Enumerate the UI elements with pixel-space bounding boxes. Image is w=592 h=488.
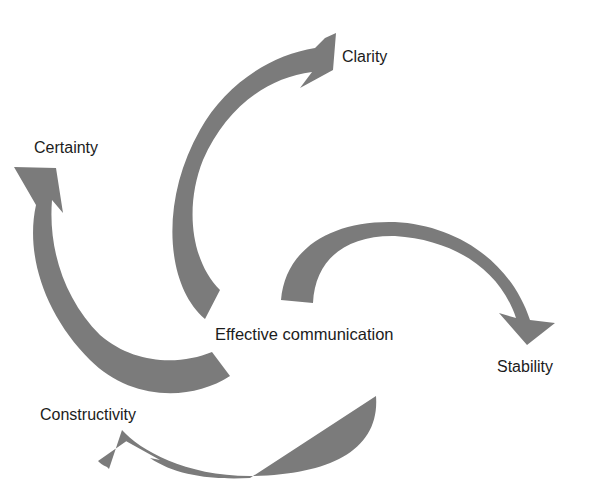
node-stability-label: Stability [497, 359, 553, 375]
node-clarity-label: Clarity [342, 49, 387, 65]
communication-diagram: Clarity Certainty Effective communicatio… [0, 0, 592, 488]
node-certainty-label: Certainty [34, 140, 98, 156]
arrow-to-constructivity [98, 396, 376, 478]
node-constructivity-label: Constructivity [40, 407, 136, 423]
center-label: Effective communication [215, 326, 394, 343]
